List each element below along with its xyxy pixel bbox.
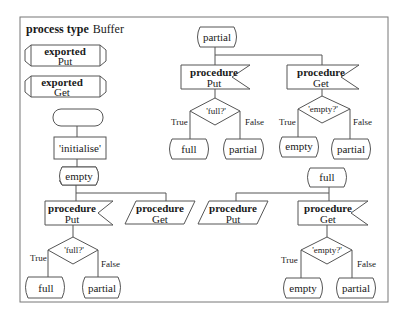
true-label: True — [30, 253, 47, 263]
full-put-name: Put — [226, 213, 241, 225]
next-state-label: partial — [342, 282, 370, 294]
exported-put-symbol[interactable]: exported Put — [25, 45, 106, 67]
full-save-put[interactable]: procedure Put — [198, 201, 268, 225]
true-label: True — [281, 255, 298, 265]
true-label: True — [171, 117, 188, 127]
decision-label: 'empty?' — [312, 245, 342, 255]
partial-put-next-full[interactable]: full — [170, 139, 209, 159]
false-label: False — [353, 117, 372, 127]
true-label: True — [279, 117, 296, 127]
process-title: process typeBuffer — [26, 22, 124, 36]
title-name: Buffer — [93, 22, 124, 36]
decision-label: 'full?' — [206, 106, 226, 116]
full-get-name: Get — [320, 213, 336, 225]
next-state-label: partial — [229, 143, 257, 155]
state-full[interactable]: full — [308, 168, 347, 187]
state-empty-label: empty — [65, 170, 93, 182]
next-state-label: partial — [88, 282, 116, 294]
state-partial-label: partial — [203, 31, 231, 43]
next-state-label: full — [181, 143, 196, 155]
false-label: False — [101, 259, 120, 269]
empty-put-name: Put — [65, 213, 80, 225]
exported-put-name: Put — [58, 55, 73, 67]
exported-get-symbol[interactable]: exported Get — [25, 76, 106, 98]
title-keyword: process type — [26, 22, 89, 36]
next-state-label: empty — [285, 140, 313, 152]
next-state-label: partial — [337, 143, 365, 155]
next-state-label: empty — [289, 282, 317, 294]
task-label: 'initialise' — [59, 142, 101, 154]
false-label: False — [357, 259, 376, 269]
partial-get-next-partial[interactable]: partial — [332, 139, 371, 159]
empty-save-get[interactable]: procedure Get — [125, 201, 195, 225]
state-full-label: full — [319, 171, 334, 183]
partial-get-next-empty[interactable]: empty — [280, 137, 319, 157]
partial-put-name: Put — [207, 77, 222, 89]
state-partial[interactable]: partial — [198, 27, 237, 47]
decision-label: 'full?' — [64, 245, 84, 255]
sdl-process-diagram: process typeBuffer exported Put exported… — [0, 0, 407, 318]
empty-next-full[interactable]: full — [26, 277, 65, 298]
start-symbol[interactable] — [53, 109, 103, 126]
empty-next-partial[interactable]: partial — [83, 277, 121, 298]
partial-get-name: Get — [313, 77, 329, 89]
task-initialise[interactable]: 'initialise' — [54, 137, 106, 159]
exported-get-name: Get — [54, 86, 70, 98]
next-state-label: full — [38, 282, 53, 294]
false-label: False — [245, 117, 264, 127]
state-empty[interactable]: empty — [60, 167, 99, 185]
full-next-empty[interactable]: empty — [284, 278, 323, 298]
full-next-partial[interactable]: partial — [337, 278, 376, 298]
decision-label: 'empty?' — [308, 104, 338, 114]
partial-put-next-partial[interactable]: partial — [224, 139, 264, 159]
empty-get-name: Get — [152, 213, 168, 225]
